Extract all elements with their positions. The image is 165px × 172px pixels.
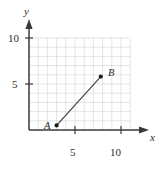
point-b-label: B (108, 68, 114, 79)
y-axis-name: y (24, 6, 29, 17)
axis-lines (29, 27, 141, 130)
y-axis-tick-label-5: 5 (12, 79, 18, 90)
x-axis-arrowhead (139, 126, 149, 133)
y-axis-tick-label-10: 10 (8, 33, 19, 44)
grid-lines (29, 38, 130, 130)
plot-canvas (0, 0, 165, 172)
coordinate-plane-figure: 10 5 5 10 x y A B (0, 0, 165, 172)
x-axis-tick-label-5: 5 (70, 147, 76, 158)
tick-marks (25, 38, 121, 134)
point-a-dot (55, 123, 59, 127)
x-axis-tick-label-10: 10 (110, 147, 121, 158)
point-a-label: A (44, 121, 50, 132)
y-axis-arrowhead (25, 19, 32, 29)
x-axis-name: x (150, 132, 155, 143)
point-b-dot (99, 75, 103, 79)
